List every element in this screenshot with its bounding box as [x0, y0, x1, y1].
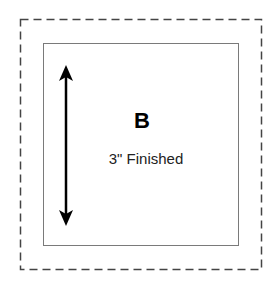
finished-size-label: 3" Finished [96, 150, 196, 168]
finished-block-outline [43, 43, 239, 246]
block-label: B [130, 110, 154, 132]
